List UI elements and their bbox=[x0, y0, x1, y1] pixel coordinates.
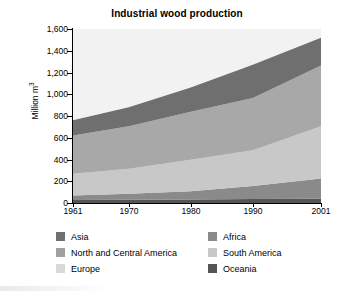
y-axis-tick-label: 1,600 bbox=[38, 25, 68, 34]
legend-swatch-icon bbox=[208, 248, 217, 257]
y-axis-tick bbox=[67, 94, 73, 95]
legend-swatch-icon bbox=[56, 232, 65, 241]
x-axis-tick-label: 1980 bbox=[171, 206, 211, 216]
stacked-area-series bbox=[73, 29, 321, 203]
y-axis-title: Million m3 bbox=[28, 61, 40, 141]
legend-label: Asia bbox=[71, 232, 89, 242]
y-axis-tick-label: 600 bbox=[38, 134, 68, 143]
x-axis-tick-label: 1970 bbox=[109, 206, 149, 216]
legend-label: South America bbox=[223, 248, 282, 258]
page-edge-artifact bbox=[0, 286, 110, 291]
y-axis-tick-label: 400 bbox=[38, 156, 68, 165]
y-axis-tick bbox=[67, 138, 73, 139]
x-axis-line bbox=[72, 203, 322, 204]
y-axis-title-exponent: 3 bbox=[28, 82, 35, 86]
y-axis-tick bbox=[67, 160, 73, 161]
y-axis-tick bbox=[67, 73, 73, 74]
x-axis-tick-label: 1961 bbox=[53, 206, 93, 216]
legend-item[interactable]: North and Central America bbox=[56, 246, 194, 259]
y-axis-tick-label: 1,400 bbox=[38, 47, 68, 56]
y-axis-tick-label: 1,000 bbox=[38, 90, 68, 99]
legend-label: Oceania bbox=[223, 264, 257, 274]
legend-label: Africa bbox=[223, 232, 246, 242]
y-axis-tick bbox=[67, 29, 73, 30]
chart-figure: Industrial wood production 0200400600800… bbox=[0, 0, 354, 293]
x-axis-tick-label: 1990 bbox=[233, 206, 273, 216]
x-axis-tick-label: 2001 bbox=[301, 206, 341, 216]
legend-swatch-icon bbox=[56, 264, 65, 273]
y-axis-title-text: Million m bbox=[30, 86, 40, 120]
y-axis-tick-label: 1,200 bbox=[38, 69, 68, 78]
y-axis-tick-label: 800 bbox=[38, 112, 68, 121]
y-axis-tick bbox=[67, 181, 73, 182]
legend-item[interactable]: Africa bbox=[208, 230, 346, 243]
legend-swatch-icon bbox=[56, 248, 65, 257]
plot-region bbox=[73, 29, 321, 203]
legend-item[interactable]: Asia bbox=[56, 230, 194, 243]
legend-label: Europe bbox=[71, 264, 100, 274]
plot-area bbox=[73, 29, 321, 203]
legend-item[interactable]: South America bbox=[208, 246, 346, 259]
legend-label: North and Central America bbox=[71, 248, 177, 258]
legend-swatch-icon bbox=[208, 232, 217, 241]
legend-item[interactable]: Europe bbox=[56, 262, 194, 275]
y-axis-tick-label: 200 bbox=[38, 177, 68, 186]
y-axis-tick bbox=[67, 51, 73, 52]
y-axis-tick bbox=[67, 116, 73, 117]
legend-item[interactable]: Oceania bbox=[208, 262, 346, 275]
chart-legend: AsiaAfricaNorth and Central AmericaSouth… bbox=[56, 230, 346, 275]
legend-swatch-icon bbox=[208, 264, 217, 273]
